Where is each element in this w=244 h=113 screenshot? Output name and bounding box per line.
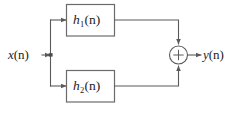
block-h1-label: h1(n) [73,13,100,27]
wire-h2-to-adder [115,66,179,86]
input-label-arg: (n) [14,47,29,62]
block-h2-label-arg: (n) [85,78,101,93]
block-h2-label: h2(n) [73,79,100,93]
input-label: x(n) [8,48,29,61]
block-h1-label-subscript: 1 [80,19,85,29]
branch-point-node [49,53,53,56]
block-h2-label-base: h [73,78,80,93]
wire-h1-to-adder [115,20,179,44]
block-diagram-canvas: x(n) y(n) h1(n) h2(n) [0,0,244,113]
block-h1-label-arg: (n) [85,12,101,27]
output-label: y(n) [203,48,224,61]
block-h2-label-subscript: 2 [80,85,85,95]
block-h1-label-base: h [73,12,80,27]
output-label-arg: (n) [209,47,224,62]
